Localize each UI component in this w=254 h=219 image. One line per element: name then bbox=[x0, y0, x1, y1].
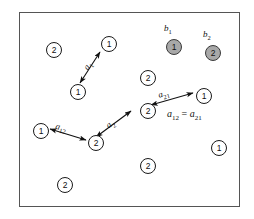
edge-arrow-layer bbox=[0, 0, 254, 219]
equation-rhs-subscript: 21 bbox=[195, 114, 202, 122]
node-label: 2 bbox=[63, 181, 68, 190]
node-label: 1 bbox=[202, 92, 207, 101]
node-label: 2 bbox=[211, 49, 216, 58]
node-label: 1 bbox=[76, 88, 81, 97]
node-label: 2 bbox=[146, 162, 151, 171]
figure-canvas: 2 1 1 1 2 2 1 2 1 2 1 2 2 b1 b2 a1 bbox=[0, 0, 254, 219]
node-circle: 2 bbox=[46, 42, 62, 58]
node-circle: 1 bbox=[196, 88, 212, 104]
node-circle: 1 bbox=[33, 123, 49, 139]
node-circle: 2 bbox=[88, 135, 104, 151]
equation-lhs-subscript: 12 bbox=[172, 114, 179, 122]
node-label: 1 bbox=[217, 144, 222, 153]
equation-annotation: a12 = a21 bbox=[167, 108, 202, 122]
node-circle: 1 bbox=[101, 36, 117, 52]
node-label: 1 bbox=[172, 43, 177, 52]
node-circle: 2 bbox=[140, 158, 156, 174]
node-circle: 2 bbox=[57, 177, 73, 193]
caption-subscript: 2 bbox=[208, 34, 211, 41]
node-label: 2 bbox=[146, 74, 151, 83]
node-label: 2 bbox=[146, 107, 151, 116]
node-label: 1 bbox=[39, 127, 44, 136]
caption-subscript: 1 bbox=[169, 28, 172, 35]
node-circle-shaded-b2: 2 bbox=[205, 45, 221, 61]
node-circle: 1 bbox=[70, 84, 86, 100]
node-label: 2 bbox=[52, 46, 57, 55]
node-caption-b1: b1 bbox=[164, 23, 172, 35]
node-circle-shaded-b1: 1 bbox=[166, 39, 182, 55]
node-circle: 2 bbox=[140, 70, 156, 86]
node-circle: 2 bbox=[140, 103, 156, 119]
node-caption-b2: b2 bbox=[203, 29, 211, 41]
node-label: 2 bbox=[94, 139, 99, 148]
node-label: 1 bbox=[107, 40, 112, 49]
node-circle: 1 bbox=[211, 140, 227, 156]
